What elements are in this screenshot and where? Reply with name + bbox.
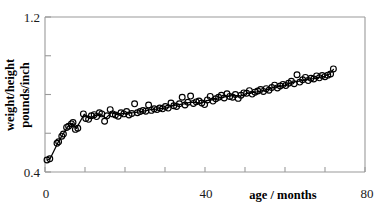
x-axis-title: age / months xyxy=(249,188,317,202)
x-axis-max-label: 80 xyxy=(361,186,374,201)
y-axis-title-line2: pounds/inch xyxy=(18,62,32,127)
chart-container: 1.2 0.4 0 40 80 age / months weight/heig… xyxy=(0,0,385,216)
y-axis-title-group: weight/height pounds/inch xyxy=(3,58,32,131)
x-axis-mid-label: 40 xyxy=(200,186,213,201)
x-axis-min-label: 0 xyxy=(43,186,50,201)
y-axis-max-label: 1.2 xyxy=(24,10,40,25)
y-axis-title-line1: weight/height xyxy=(3,58,17,131)
chart-background xyxy=(0,0,385,216)
y-axis-min-label: 0.4 xyxy=(24,165,41,180)
weight-height-vs-age-scatter-chart: 1.2 0.4 0 40 80 age / months weight/heig… xyxy=(0,0,385,216)
